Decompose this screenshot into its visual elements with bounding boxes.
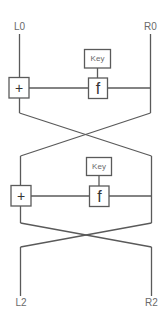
feistel-diagram (0, 0, 166, 327)
round1-function-label: f (96, 81, 100, 97)
input-right-label: R0 (144, 22, 157, 32)
output-left-label: L2 (15, 298, 26, 308)
round2-key-label: Key (92, 163, 106, 171)
round1-xor-label: + (15, 81, 23, 95)
round2-xor-label: + (17, 189, 25, 203)
input-left-label: L0 (14, 22, 25, 32)
round2-function-label: f (97, 189, 101, 205)
output-right-label: R2 (145, 298, 158, 308)
round1-key-label: Key (91, 55, 105, 63)
